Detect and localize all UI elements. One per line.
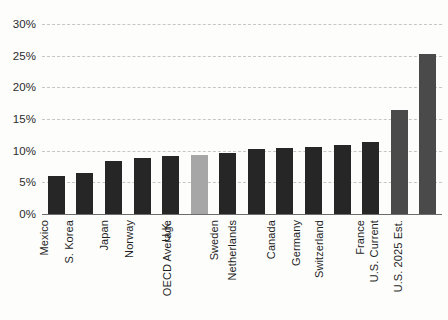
y-axis-tick-label: 20% xyxy=(13,81,36,93)
bar xyxy=(276,148,293,214)
x-axis-tick-label: Mexico xyxy=(39,220,51,255)
bar-slot xyxy=(328,24,357,214)
y-axis-tick-label: 10% xyxy=(13,145,36,157)
bar-slot xyxy=(299,24,328,214)
x-axis-tick-label: Canada xyxy=(265,220,277,259)
bar xyxy=(362,142,379,214)
x-axis-tick-label: U.S. Current xyxy=(368,220,380,282)
bar-slot xyxy=(356,24,385,214)
plot-area: 30%25%20%15%10%5%0% xyxy=(42,24,442,214)
x-axis-tick-label: U.S. 2025 Est. xyxy=(392,220,404,292)
bar-slot xyxy=(156,24,185,214)
x-label-slot: Switzerland xyxy=(328,218,357,318)
bar xyxy=(191,155,208,214)
bar xyxy=(105,161,122,214)
x-axis-tick-label: OECD Average xyxy=(161,220,173,296)
x-label-slot: Norway xyxy=(128,218,157,318)
bar xyxy=(134,158,151,214)
y-axis-tick-label: 0% xyxy=(19,208,36,220)
chart-figure: 30%25%20%15%10%5%0% MexicoS. KoreaJapanN… xyxy=(0,0,448,320)
bar xyxy=(248,149,265,214)
bar xyxy=(162,156,179,214)
bar xyxy=(219,153,236,214)
x-axis-tick-label: France xyxy=(353,220,365,255)
bar-slot xyxy=(385,24,414,214)
x-label-slot: U.S. 2025 Est. xyxy=(414,218,443,318)
x-axis-tick-label: Sweden xyxy=(208,220,220,260)
x-axis-tick-label: Norway xyxy=(123,220,135,258)
x-axis-tick-label: S. Korea xyxy=(63,220,75,264)
bar xyxy=(419,54,436,214)
bar-slot xyxy=(213,24,242,214)
bar xyxy=(391,110,408,215)
x-axis-tick-label: Switzerland xyxy=(313,220,325,278)
bar-slot xyxy=(128,24,157,214)
bar xyxy=(305,147,322,214)
bar xyxy=(48,176,65,214)
axis-baseline xyxy=(42,214,442,215)
y-axis-tick-label: 5% xyxy=(19,176,36,188)
x-axis-tick-label: Germany xyxy=(291,220,303,266)
bar-slot xyxy=(414,24,443,214)
bar xyxy=(76,173,93,214)
y-axis-tick-label: 15% xyxy=(13,113,36,125)
x-label-slot: S. Korea xyxy=(71,218,100,318)
bar-slot xyxy=(71,24,100,214)
bar-slot xyxy=(42,24,71,214)
x-axis-labels: MexicoS. KoreaJapanNorwayU.K.OECD Averag… xyxy=(42,218,442,318)
y-axis-tick-label: 25% xyxy=(13,50,36,62)
bar-slot xyxy=(271,24,300,214)
bars-group xyxy=(42,24,442,214)
bar-slot xyxy=(242,24,271,214)
bar-slot xyxy=(185,24,214,214)
x-axis-tick-label: Netherlands xyxy=(226,220,238,280)
y-axis-tick-label: 30% xyxy=(13,18,36,30)
bar xyxy=(334,145,351,214)
bar-slot xyxy=(99,24,128,214)
x-axis-tick-label: Japan xyxy=(98,220,110,250)
